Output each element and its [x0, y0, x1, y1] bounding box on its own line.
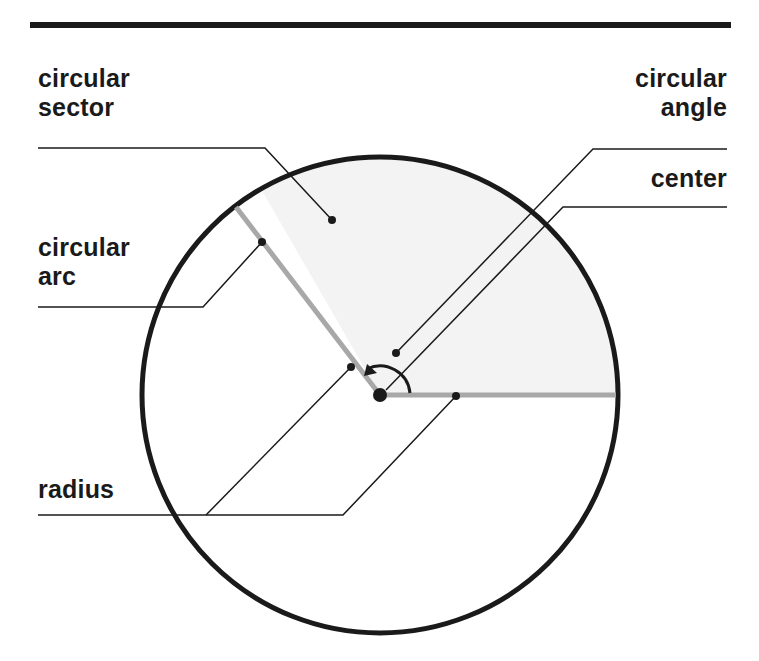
label-radius: radius — [38, 475, 114, 504]
leader-dot-sector — [328, 216, 336, 224]
label-line: circular — [38, 233, 130, 262]
leader-radius-upper — [206, 367, 351, 515]
label-circular-angle: circular angle — [635, 64, 727, 122]
leader-dot-angle — [392, 349, 400, 357]
label-line: arc — [38, 262, 130, 291]
label-line: sector — [38, 93, 130, 122]
label-line: center — [651, 164, 727, 193]
circular-sector-fill — [261, 157, 618, 395]
leader-dot-radius-upper — [347, 363, 355, 371]
label-line: radius — [38, 475, 114, 504]
center-dot — [373, 388, 387, 402]
label-line: circular — [38, 64, 130, 93]
leader-dot-arc — [258, 238, 266, 246]
label-line: angle — [635, 93, 727, 122]
label-circular-sector: circular sector — [38, 64, 130, 122]
label-line: circular — [635, 64, 727, 93]
label-circular-arc: circular arc — [38, 233, 130, 291]
label-center: center — [651, 164, 727, 193]
leader-dot-radius-right — [452, 392, 460, 400]
